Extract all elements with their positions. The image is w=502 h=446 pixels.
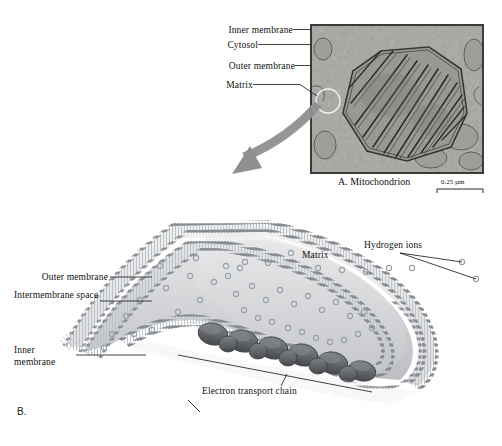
panel-b-diagram (0, 0, 502, 446)
panel-b-label-hydrogen-ions: Hydrogen ions (364, 240, 422, 252)
panel-b-label-outer-membrane: Outer membrane (8, 272, 108, 284)
panel-b-letter: B. (17, 406, 26, 417)
figure-root: Inner membrane Cytosol Outer membrane Ma… (0, 0, 502, 446)
panel-b-label-matrix: Matrix (302, 250, 329, 262)
panel-b-label-intermembrane-space: Intermembrane space (14, 290, 106, 302)
panel-b-label-electron-transport-chain: Electron transport chain (202, 386, 297, 398)
panel-b-label-inner-membrane: Inner membrane (14, 345, 76, 368)
